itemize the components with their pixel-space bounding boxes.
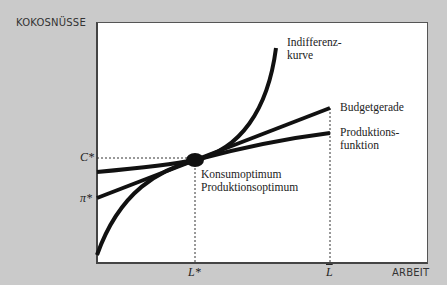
l-bar-tick: L	[326, 266, 333, 279]
budget-line-label: Budgetgerade	[340, 101, 404, 114]
c-star-tick: C*	[80, 151, 94, 164]
l-star-tick: L*	[188, 266, 201, 279]
production-label-line1: Produktions-	[340, 126, 399, 139]
production-label-line2: funktion	[340, 139, 399, 152]
indifference-curve	[97, 48, 276, 172]
pi-star-tick: π*	[80, 192, 92, 205]
production-function-label: Produktions- funktion	[340, 126, 399, 152]
optimum-label-line1: Konsumoptimum	[201, 168, 298, 181]
optimum-label-line2: Produktionsoptimum	[201, 181, 298, 194]
y-axis-label: KOKOSNÜSSE	[16, 17, 86, 28]
indifference-label-line1: Indifferenz-	[287, 36, 342, 49]
indifference-label-line2: kurve	[287, 49, 342, 62]
x-axis-label: ARBEIT	[392, 267, 429, 278]
optimum-label: Konsumoptimum Produktionsoptimum	[201, 168, 298, 194]
indifference-curve-label: Indifferenz- kurve	[287, 36, 342, 62]
optimum-point	[186, 153, 204, 167]
l-bar-text: L	[326, 265, 333, 279]
